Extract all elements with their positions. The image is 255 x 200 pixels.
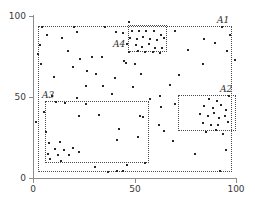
- y-axis-tick: [29, 97, 33, 98]
- scatter-point: [203, 105, 205, 107]
- scatter-point: [49, 158, 51, 160]
- scatter-point: [79, 58, 81, 60]
- x-axis-tick-label: 50: [122, 185, 148, 194]
- scatter-point: [68, 154, 70, 156]
- scatter-point: [136, 38, 138, 40]
- scatter-point: [199, 113, 201, 115]
- scatter-point: [220, 104, 222, 106]
- scatter-point: [218, 117, 220, 119]
- scatter-point: [154, 47, 156, 49]
- scatter-point: [153, 30, 155, 32]
- scatter-point: [142, 116, 144, 118]
- scatter-point: [225, 109, 227, 111]
- scatter-point: [207, 115, 209, 117]
- scatter-point: [227, 121, 229, 123]
- scatter-point: [64, 102, 66, 104]
- scatter-point: [163, 37, 165, 39]
- scatter-point: [142, 36, 144, 38]
- scatter-point: [41, 26, 43, 28]
- scatter-point: [178, 74, 180, 76]
- region-box-a2: [178, 95, 236, 131]
- scatter-point: [107, 171, 109, 173]
- scatter-point: [91, 56, 93, 58]
- scatter-point: [149, 38, 151, 40]
- scatter-point: [48, 142, 50, 144]
- scatter-point: [54, 148, 56, 150]
- scatter-point: [102, 85, 104, 87]
- scatter-point: [221, 26, 223, 28]
- region-label-a1: A1: [217, 16, 229, 25]
- x-axis-tick: [135, 179, 136, 183]
- scatter-point: [57, 154, 59, 156]
- scatter-point: [35, 121, 37, 123]
- scatter-point: [128, 21, 130, 23]
- scatter-point: [163, 130, 165, 132]
- region-label-a4: A4: [113, 40, 125, 49]
- scatter-point: [202, 63, 204, 65]
- scatter-point: [134, 63, 136, 65]
- scatter-point: [160, 34, 162, 36]
- scatter-point: [194, 153, 196, 155]
- scatter-point: [51, 95, 53, 97]
- scatter-point: [94, 166, 96, 168]
- scatter-point: [156, 39, 158, 41]
- scatter-point: [39, 44, 41, 46]
- scatter-plot-figure: 050100050100 A1A2A3A4: [0, 0, 255, 200]
- scatter-point: [169, 84, 171, 86]
- scatter-point: [55, 101, 57, 103]
- scatter-point: [174, 103, 176, 105]
- scatter-point: [213, 112, 215, 114]
- scatter-point: [131, 30, 133, 32]
- scatter-point: [114, 77, 116, 79]
- scatter-point: [205, 131, 207, 133]
- scatter-point: [122, 32, 124, 34]
- scatter-point: [78, 115, 80, 117]
- scatter-point: [222, 133, 224, 135]
- scatter-point: [160, 106, 162, 108]
- scatter-point: [45, 131, 47, 133]
- scatter-point: [145, 30, 147, 32]
- scatter-point: [104, 26, 106, 28]
- scatter-point: [148, 43, 150, 45]
- scatter-point: [234, 59, 236, 61]
- scatter-point: [118, 128, 120, 130]
- scatter-point: [144, 51, 146, 53]
- scatter-point: [86, 70, 88, 72]
- scatter-point: [46, 34, 48, 36]
- scatter-point: [203, 38, 205, 40]
- scatter-point: [187, 49, 189, 51]
- scatter-point: [129, 37, 131, 39]
- scatter-point: [78, 151, 80, 153]
- scatter-point: [67, 50, 69, 52]
- scatter-point: [208, 98, 210, 100]
- scatter-point: [85, 85, 87, 87]
- scatter-point: [43, 111, 45, 113]
- region-label-a2: A2: [220, 85, 232, 94]
- scatter-point: [95, 73, 97, 75]
- scatter-point: [115, 31, 117, 33]
- scatter-point: [228, 95, 230, 97]
- scatter-point: [202, 122, 204, 124]
- scatter-point: [128, 51, 130, 53]
- x-axis-tick-label: 0: [20, 185, 46, 194]
- scatter-point: [126, 164, 128, 166]
- scatter-point: [132, 86, 134, 88]
- scatter-point: [76, 97, 78, 99]
- scatter-point: [122, 170, 124, 172]
- scatter-point: [37, 53, 39, 55]
- scatter-point: [47, 153, 49, 155]
- scatter-point: [174, 30, 176, 32]
- scatter-point: [158, 124, 160, 126]
- y-axis-tick-label: 100: [2, 12, 26, 21]
- scatter-point: [172, 140, 174, 142]
- scatter-point: [224, 115, 226, 117]
- scatter-point: [137, 50, 139, 52]
- scatter-point: [226, 50, 228, 52]
- x-axis-tick: [236, 179, 237, 183]
- scatter-point: [61, 37, 63, 39]
- y-axis-tick-label: 50: [2, 93, 26, 102]
- y-axis-tick-label: 0: [2, 174, 26, 183]
- scatter-point: [212, 107, 214, 109]
- scatter-point: [225, 149, 227, 151]
- scatter-point: [59, 141, 61, 143]
